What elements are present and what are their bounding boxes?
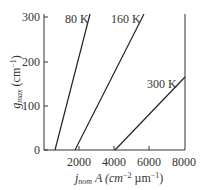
y-tick-label: 200 (22, 55, 40, 69)
x-tick-label: 6000 (137, 155, 161, 169)
y-tick-label: 300 (22, 10, 40, 24)
x-tick-label: 4000 (102, 155, 126, 169)
curve-label-300k: 300 K (147, 77, 177, 91)
y-tick-label: 100 (22, 99, 40, 113)
x-tick-label: 8000 (172, 155, 196, 169)
curve-label-160k: 160 K (111, 12, 141, 26)
chart: 0 100 200 300 2000 4000 6000 8000 80 K 1… (0, 0, 202, 190)
x-ticks (79, 146, 149, 150)
y-ticks (44, 17, 48, 150)
curve-label-80k: 80 K (65, 12, 89, 26)
y-tick-label: 0 (34, 143, 40, 157)
x-tick-label: 2000 (67, 155, 91, 169)
x-axis-title: jnom A (cm−2 µm−1) (73, 171, 163, 186)
